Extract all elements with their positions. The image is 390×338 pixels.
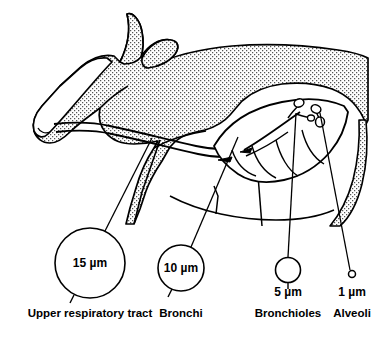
size-circle-10um-tick <box>168 289 172 297</box>
respiratory-tract-diagram: 15 µm 10 µm 5 µm 1 µm Upper respiratory … <box>0 0 390 338</box>
diagram-canvas: 15 µm 10 µm 5 µm 1 µm Upper respiratory … <box>0 0 390 338</box>
cow-belly-line <box>170 196 334 220</box>
region-label-alveoli: Alveoli <box>333 307 371 319</box>
size-circles-group: 15 µm 10 µm 5 µm 1 µm <box>55 228 366 303</box>
size-circle-5um <box>276 258 301 283</box>
cow-horn <box>120 14 143 64</box>
lung-outline <box>214 99 348 182</box>
region-labels-group: Upper respiratory tract Bronchi Bronchio… <box>28 307 371 319</box>
size-circle-15um-tick <box>70 295 74 303</box>
size-circle-1um <box>349 271 356 278</box>
size-label-1um: 1 µm <box>338 285 366 299</box>
region-label-bronchioles: Bronchioles <box>255 307 321 319</box>
size-label-15um: 15 µm <box>73 256 107 270</box>
alveolar-sac-4 <box>308 115 315 121</box>
region-label-bronchi: Bronchi <box>159 307 202 319</box>
size-label-10um: 10 µm <box>164 261 198 275</box>
alveolar-sac-3 <box>316 117 325 127</box>
region-label-upper-respiratory-tract: Upper respiratory tract <box>28 307 153 319</box>
size-label-5um: 5 µm <box>274 285 302 299</box>
